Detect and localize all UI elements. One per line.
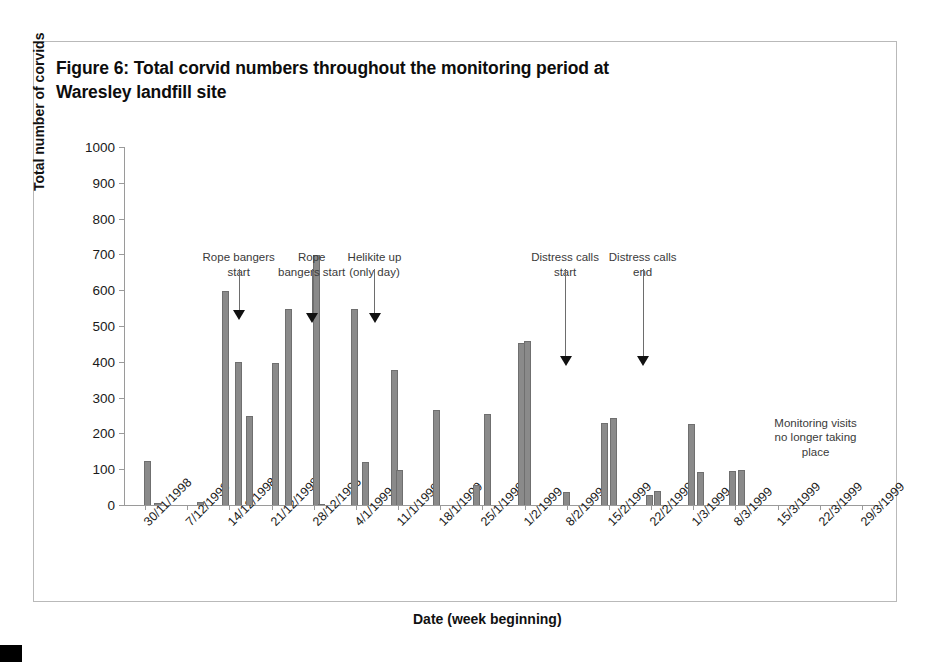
bar bbox=[524, 341, 531, 505]
x-axis-title: Date (week beginning) bbox=[413, 611, 562, 627]
x-tick bbox=[314, 505, 315, 510]
x-tick bbox=[356, 505, 357, 510]
bar bbox=[601, 423, 608, 505]
y-tick bbox=[119, 290, 124, 291]
annotation-arrow-head-rope-bangers-start-2 bbox=[306, 313, 318, 323]
bar bbox=[654, 491, 661, 505]
y-tick-label: 1000 bbox=[85, 140, 115, 155]
annotation-arrow-line-rope-bangers-start-2 bbox=[312, 269, 313, 315]
no-monitoring-note: Monitoring visits no longer taking place bbox=[754, 416, 878, 461]
bar bbox=[563, 492, 570, 505]
bar bbox=[697, 472, 704, 505]
bar bbox=[235, 362, 242, 505]
y-tick-label: 900 bbox=[92, 175, 115, 190]
x-tick-label: 4/1/1999 bbox=[352, 485, 396, 529]
y-tick bbox=[119, 505, 124, 506]
x-tick bbox=[482, 505, 483, 510]
scan-artifact-mark bbox=[0, 645, 22, 662]
y-tick bbox=[119, 254, 124, 255]
x-tick bbox=[187, 505, 188, 510]
bar bbox=[318, 504, 325, 506]
bar bbox=[646, 495, 653, 505]
x-tick-label: 1/3/1999 bbox=[689, 485, 733, 529]
chart-area: Total number of corvids Date (week begin… bbox=[33, 41, 897, 602]
x-tick bbox=[272, 505, 273, 510]
x-tick bbox=[862, 505, 863, 510]
y-tick bbox=[119, 326, 124, 327]
x-tick bbox=[693, 505, 694, 510]
bar bbox=[246, 416, 253, 505]
bar bbox=[313, 255, 320, 505]
x-tick bbox=[567, 505, 568, 510]
annotation-arrow-head-rope-bangers-start-1 bbox=[233, 310, 245, 320]
annotation-arrow-line-distress-calls-end bbox=[643, 269, 644, 358]
annotation-arrow-line-helikite-up bbox=[374, 269, 375, 315]
bar bbox=[222, 291, 229, 505]
y-tick bbox=[119, 147, 124, 148]
annotation-arrow-line-distress-calls-start bbox=[565, 269, 566, 358]
y-tick bbox=[119, 433, 124, 434]
y-tick bbox=[119, 219, 124, 220]
bar bbox=[484, 414, 491, 505]
y-tick-label: 200 bbox=[92, 426, 115, 441]
y-axis-title: Total number of corvids bbox=[31, 33, 47, 191]
bar bbox=[396, 470, 403, 505]
plot-area: 01002003004005006007008009001000 30/11/1… bbox=[124, 147, 883, 506]
x-tick bbox=[820, 505, 821, 510]
bar bbox=[272, 363, 279, 505]
annotation-arrow-head-distress-calls-end bbox=[637, 356, 649, 366]
y-tick-label: 500 bbox=[92, 319, 115, 334]
x-tick bbox=[778, 505, 779, 510]
bar bbox=[144, 461, 151, 505]
y-axis-line bbox=[124, 147, 125, 506]
x-tick bbox=[735, 505, 736, 510]
bar bbox=[433, 410, 440, 505]
bar bbox=[610, 418, 617, 505]
bar bbox=[688, 424, 695, 505]
y-tick-label: 300 bbox=[92, 390, 115, 405]
annotation-arrow-line-rope-bangers-start-1 bbox=[239, 269, 240, 311]
x-tick bbox=[609, 505, 610, 510]
y-tick-label: 700 bbox=[92, 247, 115, 262]
x-tick bbox=[398, 505, 399, 510]
bar bbox=[729, 471, 736, 505]
bar bbox=[473, 485, 480, 505]
bar bbox=[197, 502, 204, 505]
x-tick bbox=[229, 505, 230, 510]
bar bbox=[351, 309, 358, 505]
x-tick bbox=[145, 505, 146, 510]
y-tick-label: 800 bbox=[92, 211, 115, 226]
y-tick bbox=[119, 469, 124, 470]
annotation-arrow-head-helikite-up bbox=[369, 313, 381, 323]
y-tick-label: 100 bbox=[92, 462, 115, 477]
y-tick-label: 400 bbox=[92, 354, 115, 369]
bar bbox=[285, 309, 292, 505]
bar bbox=[362, 462, 369, 505]
x-tick bbox=[651, 505, 652, 510]
bar bbox=[154, 503, 161, 506]
y-tick bbox=[119, 183, 124, 184]
y-tick-label: 600 bbox=[92, 283, 115, 298]
y-tick bbox=[119, 362, 124, 363]
y-tick-label: 0 bbox=[107, 498, 115, 513]
bar bbox=[738, 470, 745, 505]
x-tick bbox=[525, 505, 526, 510]
y-tick bbox=[119, 398, 124, 399]
annotation-arrow-head-distress-calls-start bbox=[560, 356, 572, 366]
x-tick bbox=[440, 505, 441, 510]
